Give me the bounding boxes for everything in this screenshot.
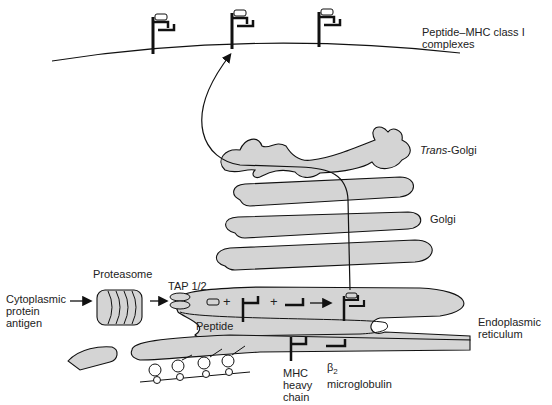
- mhc-complex-3: [319, 9, 340, 47]
- label-complexes: Peptide–MHC class I complexes: [422, 26, 525, 50]
- label-cytoplasmic-antigen: Cytoplasmic protein antigen: [6, 293, 66, 329]
- golgi-cisterna-2: [226, 212, 421, 238]
- label-trans-golgi: Trans-Golgi: [420, 144, 477, 156]
- proteasome: [97, 290, 142, 325]
- label-complexes-line1: Peptide–MHC class I: [422, 26, 525, 38]
- label-er: Endoplasmic reticulum: [478, 316, 541, 340]
- golgi-cisterna-1: [234, 177, 414, 206]
- label-peptide: Peptide: [196, 320, 233, 332]
- plasma-membrane: [52, 43, 460, 61]
- label-tap: TAP 1/2: [168, 280, 207, 292]
- label-complexes-line2: complexes: [422, 38, 525, 50]
- tap-transporter-top: [170, 293, 190, 301]
- tap-transporter-bottom: [170, 301, 190, 309]
- label-proteasome: Proteasome: [93, 268, 152, 280]
- label-mhc-heavy-chain: MHC heavy chain: [283, 367, 312, 403]
- label-beta2-microglobulin: β2 microglobulin: [327, 361, 392, 390]
- plus-sign-2: +: [270, 296, 278, 308]
- trans-golgi: [221, 127, 410, 178]
- plus-sign-1: +: [223, 296, 231, 308]
- er-lower-main: [131, 335, 470, 360]
- er-lower-left: [68, 347, 117, 370]
- label-golgi: Golgi: [430, 213, 456, 225]
- golgi-cisterna-3: [216, 240, 432, 270]
- antigen-presentation-diagram: [0, 0, 552, 405]
